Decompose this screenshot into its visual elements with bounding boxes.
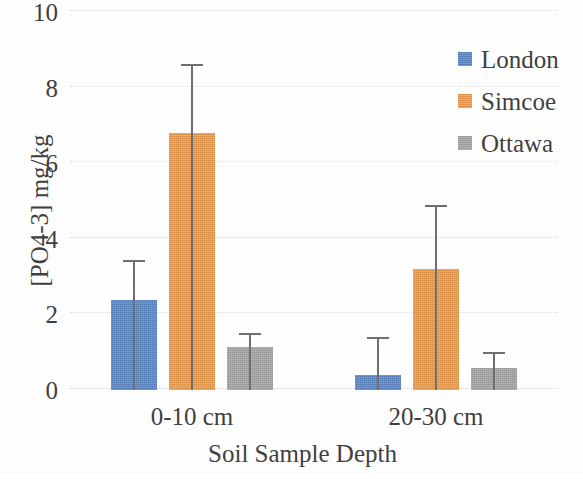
- gridline-y-4: [70, 237, 558, 239]
- error-bar-stem: [133, 261, 135, 390]
- error-bar-cap: [483, 352, 505, 354]
- legend-item-london[interactable]: London: [458, 38, 559, 80]
- error-bar-cap: [425, 205, 447, 207]
- legend-label-ottawa: Ottawa: [481, 131, 553, 156]
- bar-chart: 10 8 6 4 2 0 [PO4-3] mg/kg 0-10 cm 20-30…: [0, 0, 583, 479]
- legend: London Simcoe Ottawa: [458, 38, 559, 164]
- legend-label-london: London: [481, 47, 559, 72]
- error-bar-cap: [239, 333, 261, 335]
- error-bar-stem: [249, 334, 251, 390]
- legend-swatch-icon-ottawa: [458, 136, 472, 150]
- y-axis-title: [PO4-3] mg/kg: [27, 31, 52, 391]
- error-bar-stem: [191, 65, 193, 390]
- error-bar-stem: [377, 338, 379, 390]
- x-tick-label-0: 0-10 cm: [82, 404, 302, 429]
- legend-item-ottawa[interactable]: Ottawa: [458, 122, 559, 164]
- error-bar-cap: [123, 260, 145, 262]
- gridline-y-10: [70, 10, 558, 12]
- x-tick-label-1: 20-30 cm: [326, 404, 546, 429]
- error-bar-stem: [435, 206, 437, 390]
- x-axis-title-host: Soil Sample Depth: [0, 441, 583, 466]
- legend-item-simcoe[interactable]: Simcoe: [458, 80, 559, 122]
- y-axis-title-host: [PO4-3] mg/kg: [22, 20, 56, 360]
- error-bar-stem: [493, 353, 495, 390]
- legend-label-simcoe: Simcoe: [481, 89, 556, 114]
- legend-swatch-icon-london: [458, 52, 472, 66]
- error-bar-cap: [181, 64, 203, 66]
- error-bar-cap: [367, 337, 389, 339]
- legend-swatch-icon-simcoe: [458, 94, 472, 108]
- x-axis-title: Soil Sample Depth: [186, 440, 397, 467]
